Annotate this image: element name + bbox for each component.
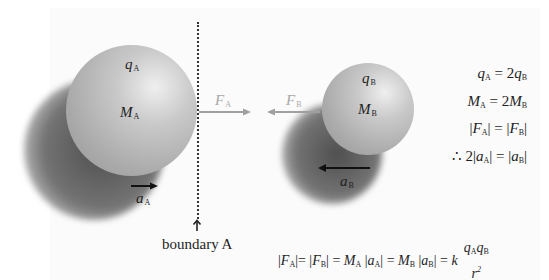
force-a-arrow-icon [199, 109, 251, 116]
fraction-denominator: r2 [471, 261, 480, 280]
fraction-numerator: qAqB [464, 239, 489, 261]
coulomb-fraction: qAqB r2 [464, 239, 489, 280]
diagram-canvas: qA MA qB MB boundary A FA FB aA aB qA = [0, 0, 549, 280]
accel-a-label: aA [136, 190, 150, 207]
equation-charge: qA = 2qB [452, 62, 527, 90]
force-a-label: FA [215, 92, 231, 109]
bottom-equation-lhs: |FA|= |FB| = MA |aA| = MB |aB| = k [278, 253, 458, 269]
force-b-arrow-icon [267, 109, 320, 116]
equation-force: |FA| = |FB| [452, 117, 527, 145]
force-b-label: FB [286, 92, 302, 109]
bottom-equation: |FA|= |FB| = MA |aA| = MB |aB| = k qAqB … [278, 239, 489, 280]
equation-accel: ∴ 2|aA| = |aB| [452, 145, 527, 173]
accel-b-arrow-icon [318, 164, 370, 172]
accel-a-arrow-icon [131, 183, 158, 190]
equation-mass: MA = 2MB [452, 90, 527, 118]
accel-b-label: aB [340, 173, 354, 190]
equations-panel: qA = 2qB MA = 2MB |FA| = |FB| ∴ 2|aA| = … [452, 62, 527, 172]
